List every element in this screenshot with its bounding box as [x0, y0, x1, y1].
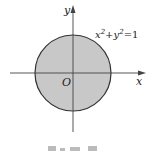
y-axis-label: y [63, 4, 71, 17]
cropped-caption [48, 146, 97, 151]
origin-label: O [62, 76, 71, 89]
x-axis-label: x [136, 75, 143, 88]
unit-circle-diagram: x y O x2+y2=1 [0, 0, 151, 151]
y-axis-arrow-icon [71, 5, 76, 13]
circle-equation: x2+y2=1 [95, 28, 138, 40]
